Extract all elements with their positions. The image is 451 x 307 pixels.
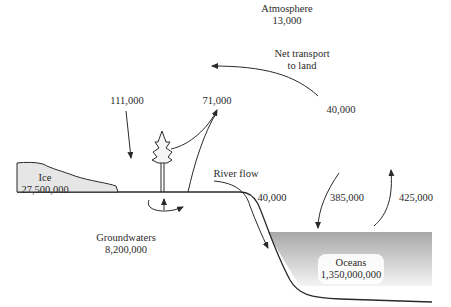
net-transport-label: Net transport to land bbox=[262, 48, 342, 72]
oceans-name: Oceans bbox=[316, 257, 386, 269]
groundwaters-label: Groundwaters 8,200,000 bbox=[88, 232, 164, 256]
ice-label: Ice 27,500,000 bbox=[20, 172, 70, 196]
precip-ocean-value: 385,000 bbox=[325, 192, 369, 204]
groundwaters-name: Groundwaters bbox=[88, 232, 164, 244]
atmosphere-name: Atmosphere bbox=[247, 3, 327, 15]
net-transport-line2: to land bbox=[262, 60, 342, 72]
river-flow-label: River flow bbox=[208, 168, 264, 180]
oceans-label: Oceans 1,350,000,000 bbox=[316, 257, 386, 281]
tree-icon bbox=[152, 131, 172, 192]
net-transport-line1: Net transport bbox=[262, 48, 342, 60]
river-flow-value: 40,000 bbox=[252, 192, 292, 204]
ice-name: Ice bbox=[20, 172, 70, 184]
precip-land-arrow bbox=[126, 111, 131, 158]
oceans-value: 1,350,000,000 bbox=[316, 269, 386, 281]
atmosphere-label: Atmosphere 13,000 bbox=[247, 3, 327, 27]
evap-ocean-value: 425,000 bbox=[394, 192, 438, 204]
atmosphere-value: 13,000 bbox=[247, 15, 327, 27]
evap-ocean-arrow bbox=[374, 170, 391, 226]
precip-land-value: 111,000 bbox=[106, 95, 148, 107]
transpiration-arrow bbox=[171, 110, 217, 149]
net-transport-value: 40,000 bbox=[320, 104, 362, 116]
groundwaters-value: 8,200,000 bbox=[88, 244, 164, 256]
ice-value: 27,500,000 bbox=[20, 184, 70, 196]
groundwater-loop-arrow bbox=[148, 200, 183, 211]
evaporation-land-arrow bbox=[188, 112, 217, 192]
evapotranspiration-value: 71,000 bbox=[200, 95, 234, 107]
